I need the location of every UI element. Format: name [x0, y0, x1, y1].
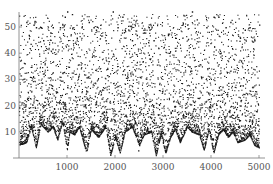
y-tick-label: 10 [5, 127, 17, 137]
x-tick-label: 2000 [104, 162, 127, 172]
scatter-markers [19, 11, 260, 156]
y-tick-label: 30 [5, 74, 17, 84]
y-tick-label: 50 [5, 22, 17, 32]
scatter-chart: 1020304050 10002000300040005000 [0, 0, 273, 184]
data-points [19, 11, 260, 156]
y-tick-label: 20 [5, 101, 17, 111]
x-tick-label: 4000 [200, 162, 223, 172]
x-tick-label: 5000 [248, 162, 271, 172]
x-axis-ticks: 10002000300040005000 [56, 155, 271, 172]
x-tick-label: 3000 [152, 162, 175, 172]
y-tick-label: 40 [5, 48, 17, 58]
x-tick-label: 1000 [56, 162, 79, 172]
